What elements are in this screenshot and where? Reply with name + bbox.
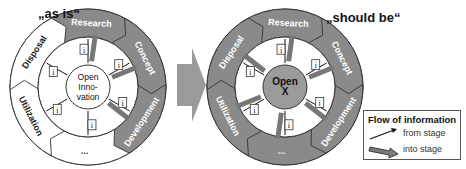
as-is-wheel: ResearchConceptDevelopment...Utilization… <box>10 9 166 165</box>
center-label: X <box>282 86 289 97</box>
stage-label: ... <box>81 146 89 156</box>
transition-arrow-icon <box>177 48 206 122</box>
thick-arrow-icon <box>369 147 398 158</box>
legend-box: Flow of information from stage into stag… <box>363 110 461 160</box>
legend-into-stage: into stage <box>403 144 442 154</box>
as-is-title: „as is“ <box>38 6 80 21</box>
should-be-title: „should be“ <box>326 10 400 25</box>
thin-arrow-icon <box>370 128 397 139</box>
should-be-wheel: ResearchConceptDevelopment...Utilization… <box>207 9 363 165</box>
center-label: Inno- <box>78 82 98 92</box>
center-label: vation <box>77 92 100 102</box>
stage-label: Research <box>268 17 309 29</box>
legend-from-stage: from stage <box>403 128 446 138</box>
center-label: Open <box>78 72 99 82</box>
stage-label: ... <box>278 146 286 156</box>
